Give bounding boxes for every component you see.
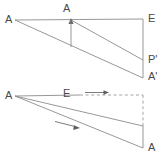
vertex-label-upper-a-left: A (5, 14, 12, 25)
upper-top-horizontal-line (15, 19, 143, 20)
geometry-figure: A A E P' A' A E A (0, 0, 167, 165)
lower-diagonal-arrow-head-icon (73, 125, 80, 130)
upper-diagram-group (15, 18, 143, 78)
vertex-label-lower-a-left: A (5, 90, 12, 101)
vertex-label-upper-e: E (148, 13, 155, 24)
lower-lower-diagonal-line (15, 96, 143, 148)
lower-horizontal-arrow-head-icon (104, 90, 110, 95)
figure-canvas (0, 0, 167, 165)
vertex-label-upper-p-prime: P' (148, 54, 157, 65)
lower-upper-diagonal-line (15, 96, 143, 126)
vertex-label-upper-a-prime: A' (148, 71, 157, 82)
lower-diagonal-arrow-shaft (55, 122, 75, 127)
upper-apex-to-p-prime-diagonal (71, 20, 143, 60)
lower-diagram-group (15, 90, 143, 148)
vertex-label-lower-a-bottom: A (148, 142, 155, 153)
vertex-label-lower-e: E (63, 88, 70, 99)
vertex-label-upper-a-apex: A (63, 3, 70, 14)
